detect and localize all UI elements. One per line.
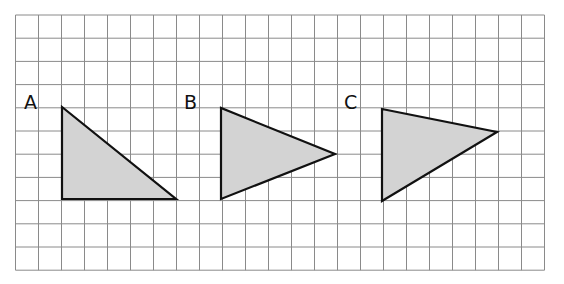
- triangle-a: [62, 107, 176, 199]
- triangle-b: [221, 108, 335, 199]
- label-c: C: [344, 91, 357, 113]
- label-a: A: [24, 91, 37, 113]
- grid-diagram: A B C: [0, 0, 564, 284]
- label-b: B: [184, 91, 197, 113]
- shape-labels: A B C: [24, 91, 357, 113]
- triangle-c: [382, 109, 497, 201]
